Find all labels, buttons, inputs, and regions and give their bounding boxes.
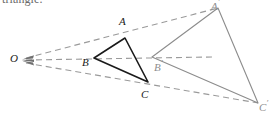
label-point-A: A [119,16,126,27]
geometry-diagram [0,0,270,114]
dilation-figure: triangle. O A B C A′ B′ C′ [0,0,270,114]
label-point-C: C [141,89,148,100]
image-triangle-ApBpCp [152,8,258,103]
label-point-A-prime: A′ [211,0,220,12]
ray-O-B-Bprime [26,57,212,60]
preimage-triangle-ABC [94,38,148,82]
arrowheads-at-O [22,55,34,65]
arrowhead-upper [22,55,34,59]
label-point-O: O [10,53,18,64]
prime-mark-C: ′ [266,98,268,108]
label-point-B-prime-letter: B [154,61,161,73]
prime-mark-B: ′ [161,58,163,68]
label-point-A-prime-letter: A [211,0,218,12]
label-point-B-prime: B′ [154,59,163,73]
prime-mark-A: ′ [218,0,220,7]
label-point-C-prime: C′ [259,99,268,113]
label-point-B: B [82,57,89,68]
